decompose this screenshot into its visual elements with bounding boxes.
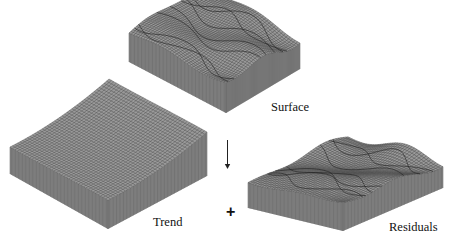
residuals-block [248,137,443,231]
decomposition-diagram [0,0,451,235]
plus-operator: + [226,204,235,220]
trend-block [10,79,207,229]
residuals-label: Residuals [389,221,438,234]
surface-label: Surface [271,101,309,114]
down-arrow-icon [225,140,230,169]
surface-block [129,0,300,113]
trend-label: Trend [153,216,182,229]
